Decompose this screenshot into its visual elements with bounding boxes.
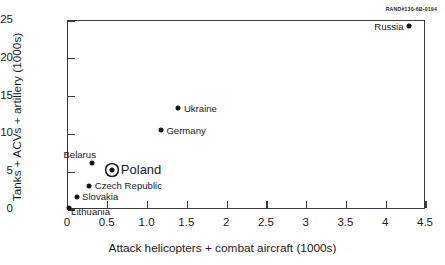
data-point: Germany [158,128,163,133]
data-point-label: Slovakia [82,192,118,202]
x-axis-tick [187,201,188,208]
x-axis-tick [306,201,307,208]
marker-icon [158,128,163,133]
x-axis-tick-label: 1.0 [127,217,167,229]
marker-icon [90,160,95,165]
rand-source-code: RAND#130-6B-0194 [386,6,437,12]
scatter-chart-figure: RAND#130-6B-0194 0510152025 00.51.01.522… [0,0,445,265]
x-axis-title: Attack helicopters + combat aircraft (10… [0,241,445,255]
data-point-label: Russia [374,21,403,31]
data-point: Poland [110,167,115,172]
x-axis-tick-label: 1.5 [166,217,206,229]
x-axis-tick-label: 4.5 [405,217,445,229]
x-axis-tick-label: 4 [365,217,405,229]
x-axis-tick-label: 2 [206,217,246,229]
data-point: Belarus [90,160,95,165]
data-point-label: Poland [121,163,161,176]
x-axis-tick-label: 2.5 [246,217,286,229]
highlighted-marker-icon [110,167,115,172]
marker-icon [74,194,79,199]
data-point-label: Belarus [63,150,96,160]
x-axis-tick-label: 3.5 [325,217,365,229]
y-axis-tick [68,20,75,21]
x-axis-tick [346,201,347,208]
x-axis-tick [147,201,148,208]
y-axis-tick [68,58,75,59]
data-point-label: Lithuania [71,207,110,217]
data-point: Slovakia [74,194,79,199]
x-axis-tick-label: 0.5 [87,217,127,229]
data-point-label: Germany [166,126,205,136]
marker-icon [176,106,181,111]
data-point-label: Ukraine [184,104,217,114]
data-point: Russia [407,24,412,29]
x-axis-tick [266,201,267,208]
y-axis-tick [68,96,75,97]
x-axis-tick [227,201,228,208]
x-axis-tick-label: 0 [47,217,87,229]
y-axis-title: Tanks + ACVs + artillery (1000s) [10,12,24,222]
y-axis-tick [68,172,75,173]
marker-icon [87,183,92,188]
marker-icon [407,24,412,29]
data-point: Lithuania [66,206,71,211]
x-axis-tick [386,201,387,208]
data-point: Ukraine [176,106,181,111]
data-point-label: Czech Republic [95,181,162,191]
y-axis-tick [68,134,75,135]
x-axis-tick [425,201,426,208]
data-point: Czech Republic [87,183,92,188]
x-axis-tick-label: 3 [286,217,326,229]
